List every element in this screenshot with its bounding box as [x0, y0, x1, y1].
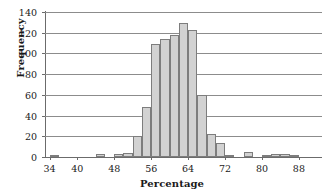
x-tick-label: 48	[99, 163, 129, 174]
x-tick-label: 34	[35, 163, 65, 174]
y-tick-label: 0	[0, 153, 37, 162]
y-tick-label: 20	[0, 132, 37, 141]
y-tick-label: 40	[0, 112, 37, 121]
x-tick-mark	[299, 157, 300, 160]
y-tick-label: 140	[0, 8, 37, 17]
histogram-bar	[170, 35, 179, 157]
x-tick-mark	[262, 157, 263, 160]
x-tick-mark	[50, 157, 51, 160]
x-tick-mark	[225, 157, 226, 160]
x-tick-mark	[114, 157, 115, 160]
histogram-bar	[151, 44, 160, 157]
x-tick-mark	[151, 157, 152, 160]
x-tick-label: 64	[173, 163, 203, 174]
y-tick-label: 100	[0, 49, 37, 58]
histogram-bar	[188, 30, 197, 157]
x-tick-mark	[77, 157, 78, 160]
plot-area	[45, 12, 322, 157]
histogram-chart: Frequency 020406080100120140 34404856647…	[0, 0, 324, 195]
x-tick-label: 56	[136, 163, 166, 174]
histogram-bar	[179, 23, 188, 157]
x-tick-mark	[188, 157, 189, 160]
x-tick-label: 88	[284, 163, 314, 174]
y-tick-label: 60	[0, 91, 37, 100]
y-tick-label: 80	[0, 70, 37, 79]
histogram-bar	[216, 143, 225, 158]
y-tick-label: 120	[0, 29, 37, 38]
x-tick-label: 80	[247, 163, 277, 174]
histogram-bar	[133, 136, 142, 157]
gridline	[45, 12, 322, 13]
histogram-bar	[197, 95, 206, 157]
x-axis-title: Percentage	[44, 178, 300, 189]
histogram-bar	[207, 134, 216, 157]
x-tick-label: 40	[62, 163, 92, 174]
x-tick-label: 72	[210, 163, 240, 174]
histogram-bar	[142, 107, 151, 157]
histogram-bar	[160, 39, 169, 157]
